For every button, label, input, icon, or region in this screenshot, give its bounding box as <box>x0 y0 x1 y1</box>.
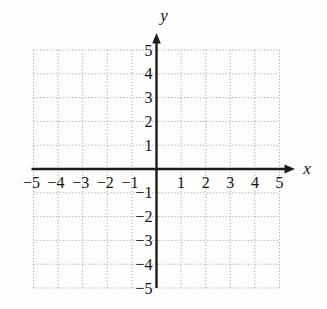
y-tick-label: 4 <box>145 65 153 82</box>
coordinate-plane-svg: −5−4−3−2−112345−5−4−3−2−112345xy <box>0 0 327 309</box>
y-tick-label: −4 <box>135 256 152 273</box>
x-tick-label: 4 <box>251 174 259 191</box>
x-axis-label: x <box>302 159 311 178</box>
y-tick-label: −3 <box>135 232 152 249</box>
x-tick-label: −5 <box>23 174 40 191</box>
x-tick-label: 2 <box>202 174 210 191</box>
y-tick-label: 1 <box>145 137 153 154</box>
y-tick-label: −2 <box>135 208 152 225</box>
x-tick-label: 3 <box>226 174 234 191</box>
y-tick-label: −1 <box>135 184 152 201</box>
x-tick-label: 1 <box>177 174 185 191</box>
x-tick-label: −3 <box>72 174 89 191</box>
x-tick-label: −2 <box>97 174 114 191</box>
x-tick-label: 5 <box>276 174 284 191</box>
y-tick-label: 5 <box>145 42 153 59</box>
y-tick-label: 3 <box>145 89 153 106</box>
coordinate-plane: −5−4−3−2−112345−5−4−3−2−112345xy <box>0 0 327 309</box>
y-tick-label: −5 <box>135 280 152 297</box>
y-tick-label: 2 <box>145 113 153 130</box>
y-axis-arrowhead-icon <box>152 33 161 44</box>
x-tick-label: −4 <box>48 174 65 191</box>
x-axis-arrowhead-icon <box>285 165 296 174</box>
y-axis-label: y <box>158 6 168 25</box>
